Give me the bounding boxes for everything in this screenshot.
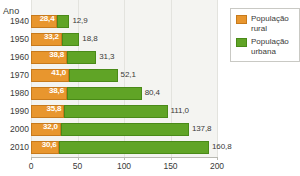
bar-value-label-rural: 30,6 [31,140,56,149]
tick-mark [78,157,79,160]
x-axis-tick-label: 50 [73,161,82,171]
bar-value-label-urbana: 80,4 [145,88,160,97]
legend-label-urbana: População urbana [251,37,289,56]
legend-item-urbana: População urbana [236,37,299,56]
bar-segment-urbana [69,69,117,82]
bar-segment-urbana [59,141,209,154]
bar-value-label-rural: 32,0 [31,122,58,131]
row-year-label: 1940 [2,16,29,26]
x-axis-tick-label: 0 [29,161,34,171]
bar-value-label-urbana: 137,8 [192,124,212,133]
row-year-label: 1980 [2,88,29,98]
legend: População rural População urbana [230,8,300,62]
row-year-label: 2010 [2,142,29,152]
bar-value-label-urbana: 31,3 [99,52,114,61]
bar-value-label-rural: 41,0 [31,68,66,77]
bar-segment-urbana [67,51,96,64]
tick-mark [124,157,125,160]
tick-mark [31,157,32,160]
legend-swatch-rural-icon [236,15,247,24]
stacked-bar [31,141,209,154]
bar-value-label-urbana: 111,0 [171,106,189,115]
bar-segment-urbana [61,123,189,136]
bar-value-label-rural: 28,4 [31,14,54,23]
x-axis-tick-label: 100 [117,161,131,171]
tick-mark [217,157,218,160]
bar-value-label-urbana: 18,8 [82,34,97,43]
x-axis-tick-label: 150 [163,161,177,171]
bar-value-label-urbana: 12,9 [72,16,87,25]
bar-value-label-rural: 33,2 [31,32,59,41]
row-year-label: 1990 [2,106,29,116]
bar-row: 201030,6160,8 [0,139,300,156]
bar-value-label-rural: 38,8 [31,50,64,59]
legend-label-rural: População rural [251,14,289,33]
bar-segment-urbana [62,33,79,46]
row-year-label: 1960 [2,52,29,62]
bar-value-label-rural: 35,8 [31,104,61,113]
row-year-label: 2000 [2,124,29,134]
bar-value-label-rural: 38,6 [31,86,64,95]
bar-value-label-urbana: 160,8 [212,142,232,151]
x-axis-tick-label: 200 [210,161,224,171]
population-stacked-bar-chart: Ano 194028,412,9195033,218,8196038,831,3… [0,0,300,176]
tick-mark [171,157,172,160]
legend-item-rural: População rural [236,14,299,33]
bar-row: 198038,680,4 [0,85,300,102]
bar-value-label-urbana: 52,1 [121,70,136,79]
bar-row: 200032,0137,8 [0,121,300,138]
legend-swatch-urbana-icon [236,38,247,47]
bar-row: 197041,052,1 [0,67,300,84]
bar-segment-urbana [67,87,142,100]
row-year-label: 1950 [2,34,29,44]
bar-segment-urbana [57,15,69,28]
row-year-label: 1970 [2,70,29,80]
bar-segment-urbana [64,105,167,118]
bar-row: 199035,8111,0 [0,103,300,120]
